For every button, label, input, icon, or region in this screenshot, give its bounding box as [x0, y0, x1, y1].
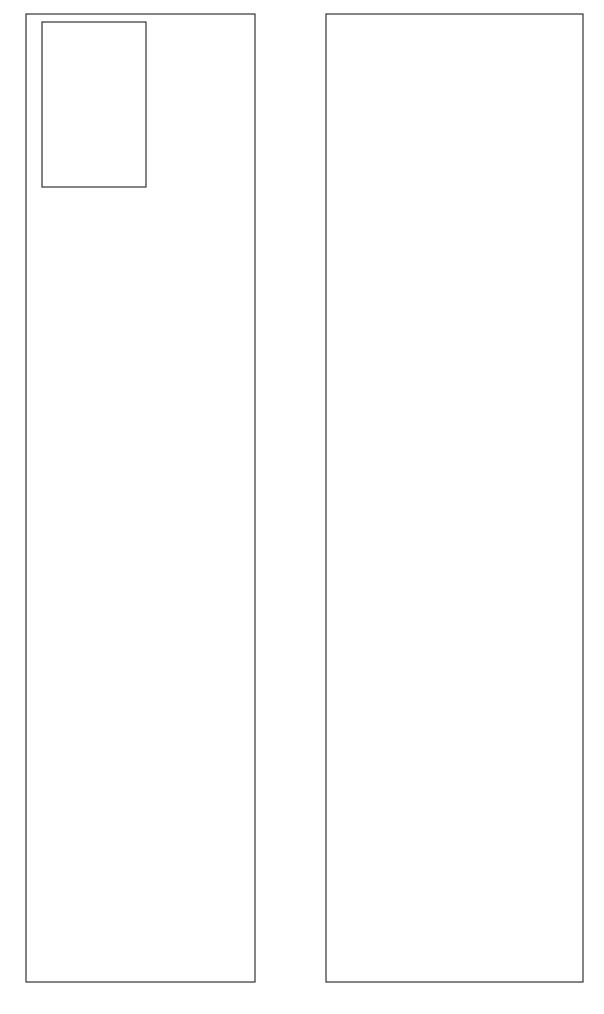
top-chart-frame [26, 14, 255, 982]
top-chromatogram [26, 14, 255, 982]
bottom-chromatogram [326, 14, 583, 982]
document-page [0, 0, 604, 1014]
top-legend [42, 22, 146, 187]
bottom-chart-frame [326, 14, 583, 982]
